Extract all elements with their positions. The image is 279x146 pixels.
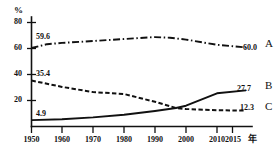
series-c-start-value: 4.9	[36, 110, 46, 118]
y-tick-label-20: 20	[6, 96, 22, 104]
x-tick-label-2000: 2000	[173, 136, 199, 144]
y-tick-label-40: 40	[6, 70, 22, 78]
line-chart: % 80 60 40 20 1950 1960 1970 1980 1990 2…	[0, 0, 279, 146]
series-a-start-value: 59.6	[36, 33, 50, 41]
series-a-end-value: 60.0	[243, 44, 257, 52]
x-tick-label-1990: 1990	[142, 136, 168, 144]
y-axis-unit-label: %	[14, 6, 23, 15]
x-tick-label-1960: 1960	[49, 136, 75, 144]
x-tick-label-1980: 1980	[111, 136, 137, 144]
x-tick-label-1950: 1950	[19, 136, 45, 144]
series-line-c	[32, 90, 247, 120]
series-b-end-value: 27.7	[237, 85, 251, 93]
series-line-a	[32, 37, 247, 48]
series-b-start-value: 35.4	[36, 70, 50, 78]
series-c-end-value: 12.3	[240, 104, 254, 112]
series-a-label: A	[265, 38, 273, 49]
series-b-label: B	[265, 80, 272, 91]
y-tick-label-60: 60	[6, 44, 22, 52]
y-tick-label-80: 80	[6, 18, 22, 26]
x-tick-label-2015: 2015	[220, 136, 246, 144]
series-c-label: C	[265, 101, 272, 112]
x-tick-label-1970: 1970	[80, 136, 106, 144]
x-axis-unit-label: 年	[248, 135, 257, 144]
